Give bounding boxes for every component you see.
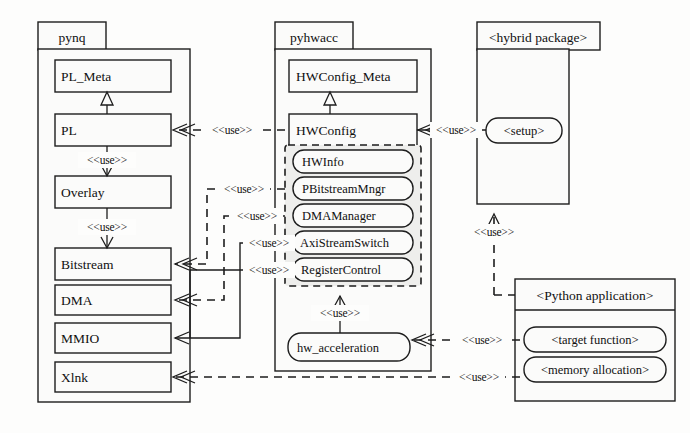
package-hybrid-label: <hybrid package> xyxy=(489,30,587,45)
module-dmamanager-label: DMAManager xyxy=(302,209,376,223)
package-pyhwacc[interactable]: pyhwacc HWConfig_Meta HWConfig HWInfo PB… xyxy=(275,22,431,371)
rel-label-pl-overlay: <<use>> xyxy=(87,154,127,166)
rel-label-memalloc-xlnk: <<use>> xyxy=(459,371,499,383)
module-target-function-label: <target function> xyxy=(551,333,638,347)
rel-pbitstream-uses-bitstream: <<use>> xyxy=(175,181,285,270)
class-mmio-label: MMIO xyxy=(61,331,100,346)
rel-label-overlay-bitstream: <<use>> xyxy=(87,221,127,233)
package-python-application[interactable]: <Python application> <target function> <… xyxy=(515,279,675,401)
rel-dmamanager-uses-dma: <<use>> xyxy=(175,208,285,306)
rel-label-targetfn-hwaccel: <<use>> xyxy=(462,334,502,346)
class-pl-meta-label: PL_Meta xyxy=(61,69,111,84)
rel-label-hwaccel-group: <<use>> xyxy=(320,307,360,319)
rel-label-dmamanager-dma: <<use>> xyxy=(237,210,277,222)
package-pynq-label: pynq xyxy=(59,30,86,45)
package-hybrid[interactable]: <hybrid package> <setup> xyxy=(477,22,600,204)
rel-label-hwconfig-pl: <<use>> xyxy=(212,124,252,136)
package-pyhwacc-label: pyhwacc xyxy=(290,30,338,45)
diagram-canvas: pynq PL_Meta PL Overlay Bitstream DMA MM… xyxy=(0,0,690,433)
rel-label-axistreamswitch-mmio: <<use>> xyxy=(249,237,289,249)
package-pynq[interactable]: pynq PL_Meta PL Overlay Bitstream DMA MM… xyxy=(38,22,190,402)
class-hwconfig-label: HWConfig xyxy=(296,123,356,138)
class-dma-label: DMA xyxy=(61,293,93,308)
rel-label-pbitstream-bitstream: <<use>> xyxy=(224,183,264,195)
uml-package-diagram: pynq PL_Meta PL Overlay Bitstream DMA MM… xyxy=(0,0,690,433)
rel-label-registercontrol-mmio: <<use>> xyxy=(249,264,289,276)
rel-pyapp-uses-hybrid: <<use>> xyxy=(465,214,523,295)
class-overlay-label: Overlay xyxy=(61,185,105,200)
class-pl-label: PL xyxy=(61,123,77,138)
class-hwconfig-meta-label: HWConfig_Meta xyxy=(296,69,390,84)
module-hw-acceleration-label: hw_acceleration xyxy=(297,341,380,355)
module-setup-label: <setup> xyxy=(504,124,545,138)
python-app-label: <Python application> xyxy=(537,288,654,303)
class-bitstream-label: Bitstream xyxy=(61,257,114,272)
module-axistreamswitch-label: AxiStreamSwitch xyxy=(300,236,390,250)
class-xlnk-label: Xlnk xyxy=(61,370,88,385)
rel-label-setup-hwconfig: <<use>> xyxy=(436,124,476,136)
module-memory-allocation-label: <memory allocation> xyxy=(541,363,649,377)
rel-label-pyapp-hybrid: <<use>> xyxy=(474,226,514,238)
module-hwinfo-label: HWInfo xyxy=(302,155,344,169)
module-pbitstreammngr-label: PBitstreamMngr xyxy=(302,182,386,196)
module-registercontrol-label: RegisterControl xyxy=(301,263,381,277)
